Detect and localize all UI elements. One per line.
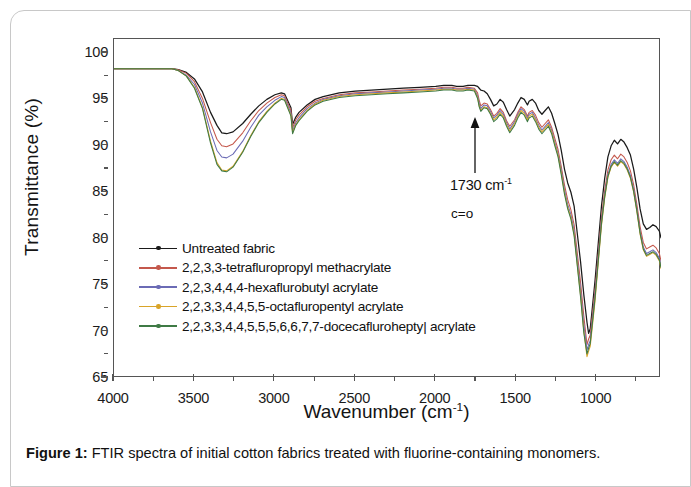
annotation-wavenumber-text: 1730 cm [450,177,504,193]
x-axis-label-superscript: -1 [453,400,463,413]
x-minor-tick-mark [394,377,395,382]
legend-item[interactable]: Untreated fabric [139,239,476,258]
annotation-arrow-icon [468,117,482,173]
y-minor-tick-mark [104,121,109,122]
y-axis-ticks: 65707580859095100 [64,38,108,377]
legend-label: Untreated fabric [182,239,275,258]
legend-item[interactable]: 2,2,3,3-tetrafluropropyl methacrylate [139,258,476,277]
legend-label: 2,2,3,3,4,4,5,5-octafluropentyl acrylate [182,297,403,316]
y-tick-mark [101,237,108,238]
y-tick-mark [101,98,108,99]
x-axis-label: Wavenumber (cm-1) [113,400,660,423]
figure-caption: Figure 1: FTIR spectra of initial cotton… [26,443,666,463]
y-minor-tick-mark [104,167,109,168]
legend-item[interactable]: 2,2,3,3,4,4,5,5-octafluropentyl acrylate [139,297,476,316]
y-axis-label: Transmittance (%) [21,47,43,307]
x-minor-tick-mark [233,377,234,382]
x-minor-tick-mark [474,377,475,382]
figure-caption-label: Figure 1: [26,445,88,461]
x-tick-mark [273,374,274,381]
annotation-assignment: c=o [451,206,473,221]
legend-swatch-icon [139,301,177,313]
legend-swatch-icon [139,243,177,255]
y-tick-mark [101,191,108,192]
x-axis-label-paren: ) [463,401,469,422]
x-minor-tick-mark [153,377,154,382]
legend: Untreated fabric2,2,3,3-tetrafluropropyl… [139,239,476,336]
legend-item[interactable]: 2,2,3,4,4,4-hexaflurobutyl acrylate [139,278,476,297]
x-minor-tick-mark [314,377,315,382]
legend-label: 2,2,3,4,4,4-hexaflurobutyl acrylate [182,278,378,297]
figure-caption-text: FTIR spectra of initial cotton fabrics t… [88,445,601,461]
legend-swatch-icon [139,281,177,293]
y-minor-tick-mark [104,307,109,308]
annotation-wavenumber: 1730 cm-1 [450,176,512,193]
legend-label: 2,2,3,3-tetrafluropropyl methacrylate [182,258,391,277]
x-tick-mark [595,374,596,381]
y-minor-tick-mark [104,260,109,261]
legend-item[interactable]: 2,2,3,3,4,4,5,5,5,6,6,7,7-docecaflurohep… [139,317,476,336]
figure-1: Transmittance (%) 65707580859095100 4000… [0,0,691,487]
y-tick-mark [101,376,108,377]
y-tick-mark [101,284,108,285]
legend-label: 2,2,3,3,4,4,5,5,5,6,6,7,7-docecaflurohep… [182,317,476,336]
x-minor-tick-mark [555,377,556,382]
x-minor-tick-mark [635,377,636,382]
y-tick-mark [101,330,108,331]
annotation-wavenumber-superscript: -1 [504,176,512,186]
y-tick-mark [101,144,108,145]
legend-swatch-icon [139,262,177,274]
legend-swatch-icon [139,320,177,332]
x-tick-mark [193,374,194,381]
x-tick-mark [112,374,113,381]
y-minor-tick-mark [104,353,109,354]
x-tick-mark [354,374,355,381]
x-tick-mark [515,374,516,381]
y-minor-tick-mark [104,214,109,215]
y-minor-tick-mark [104,75,109,76]
x-tick-mark [434,374,435,381]
y-tick-mark [101,51,108,52]
x-axis-label-text: Wavenumber (cm [303,401,452,422]
